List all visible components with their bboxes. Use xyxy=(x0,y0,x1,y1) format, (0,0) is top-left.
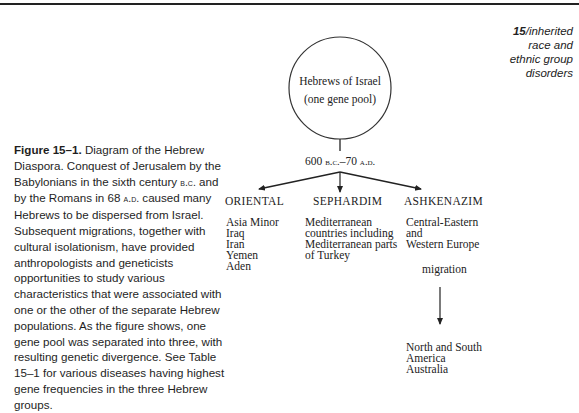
destination-item: Australia xyxy=(406,364,482,375)
arrow-ashkenazim xyxy=(340,172,421,189)
group-regions-ashkenazim: Central-Eastern and Western Europe xyxy=(406,217,479,250)
group-title-ashkenazim: ASHKENAZIM xyxy=(404,195,483,207)
root-label-line-1: Hebrews of Israel xyxy=(292,74,388,88)
group-title-sephardim: SEPHARDIM xyxy=(313,195,382,207)
period-end-era: A.D. xyxy=(360,156,375,167)
migration-label: migration xyxy=(422,262,467,276)
migration-destinations: North and South America Australia xyxy=(406,342,482,375)
group-title-oriental: ORIENTAL xyxy=(225,195,284,207)
period-start: 600 xyxy=(305,155,322,167)
group-regions-oriental: Asia Minor Iraq Iran Yemen Aden xyxy=(226,217,279,272)
region-item: of Turkey xyxy=(305,250,397,261)
root-label: Hebrews of Israel (one gene pool) xyxy=(292,74,388,106)
period-label: 600 B.C.–70 A.D. xyxy=(305,154,375,169)
period-end: 70 xyxy=(345,155,357,167)
period-start-era: B.C. xyxy=(325,156,340,167)
root-label-line-2: (one gene pool) xyxy=(292,92,388,106)
arrow-oriental xyxy=(259,172,340,189)
region-item: Aden xyxy=(226,261,279,272)
group-regions-sephardim: Mediterranean countries including Medite… xyxy=(305,217,397,261)
region-item: Western Europe xyxy=(406,239,479,250)
